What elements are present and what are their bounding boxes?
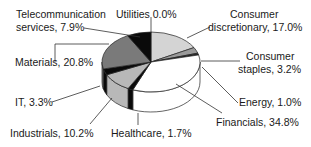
label-cons-disc-line1: Consumer [230,8,279,20]
label-utilities: Utilities 0.0% [116,8,177,20]
label-cons-disc-line2: discretionary, 17.0% [208,21,302,33]
label-energy: Energy, 1.0% [239,96,301,108]
label-industrials: Industrials, 10.2% [10,127,93,139]
label-materials: Materials, 20.8% [15,56,93,68]
label-telecom-line2: services, 7.9% [16,21,84,33]
label-healthcare: Healthcare, 1.7% [111,127,192,139]
leader-line-industrials [90,98,112,124]
leader-line-cons-disc [187,27,210,38]
label-financials: Financials, 34.8% [216,116,299,128]
leader-line-energy [202,67,238,103]
label-it: IT, 3.3% [15,96,53,108]
label-telecom-line1: Telecommunication [16,8,106,20]
label-cons-staples-line1: Consumer [246,50,295,62]
pie-top [102,32,200,92]
leader-line-telecom [84,28,140,37]
pie-side-healthcare [128,89,133,110]
pie-chart: Telecommunication services, 7.9% Utiliti… [0,0,311,147]
label-cons-staples-line2: staples, 3.2% [238,63,301,75]
leader-line-it [52,86,100,102]
